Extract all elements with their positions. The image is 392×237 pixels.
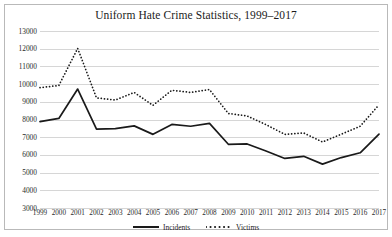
y-tick-label: 10000: [3, 80, 37, 89]
y-tick-label: 13000: [3, 27, 37, 36]
y-tick-label: 9000: [3, 97, 37, 106]
plot-area: [40, 31, 379, 208]
y-tick-label: 7000: [3, 133, 37, 142]
chart-legend: Incidents Victims: [0, 220, 392, 234]
y-tick-label: 11000: [3, 62, 37, 71]
y-axis-labels: 3000400050006000700080009000100001100012…: [0, 31, 37, 208]
y-tick-label: 8000: [3, 115, 37, 124]
chart-figure: Uniform Hate Crime Statistics, 1999–2017…: [0, 0, 392, 237]
series-line-victims: [40, 48, 379, 142]
y-tick-label: 5000: [3, 168, 37, 177]
y-tick-label: 4000: [3, 186, 37, 195]
legend-label-victims: Victims: [236, 223, 259, 232]
x-tick-label: 2017: [366, 209, 392, 217]
series-layer: [40, 31, 379, 208]
y-tick-label: 12000: [3, 44, 37, 53]
legend-swatch-dotted-icon: [206, 223, 232, 231]
chart-title: Uniform Hate Crime Statistics, 1999–2017: [0, 9, 392, 21]
legend-item-victims: Victims: [206, 223, 259, 232]
series-line-incidents: [40, 89, 379, 164]
legend-item-incidents: Incidents: [133, 223, 190, 232]
legend-label-incidents: Incidents: [163, 223, 190, 232]
y-tick-label: 6000: [3, 150, 37, 159]
legend-swatch-solid-icon: [133, 223, 159, 231]
